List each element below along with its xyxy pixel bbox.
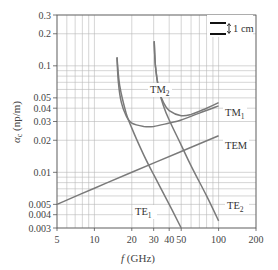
curves	[57, 41, 219, 228]
legend-scale: 1 cm	[207, 15, 254, 37]
x-tick-label: 30	[149, 234, 159, 245]
x-tick-label: 100	[211, 234, 226, 245]
x-tick-label: 10	[89, 234, 99, 245]
x-axis-ticks: 51020304050100200	[55, 228, 264, 245]
x-tick-label: 5	[55, 234, 60, 245]
y-tick-label: 0.04	[34, 103, 52, 114]
y-tick-label: 0.003	[29, 223, 52, 234]
x-tick-label: 200	[249, 234, 264, 245]
label-tem: TEM	[225, 140, 248, 151]
y-axis-title: αc (np/m)	[10, 101, 24, 143]
y-axis-ticks: 0.0030.0040.0050.010.020.030.040.050.10.…	[29, 10, 58, 234]
y-tick-label: 0.01	[34, 167, 52, 178]
y-tick-label: 0.02	[34, 135, 52, 146]
curve-tem	[57, 136, 219, 205]
x-tick-label: 40	[164, 234, 174, 245]
curve-te1	[117, 57, 181, 228]
y-tick-label: 0.3	[39, 10, 52, 21]
y-tick-label: 0.1	[39, 60, 52, 71]
legend-label: 1 cm	[233, 23, 254, 34]
y-tick-label: 0.004	[29, 209, 52, 220]
grid-lines	[57, 15, 256, 228]
y-tick-label: 0.03	[34, 116, 52, 127]
x-tick-label: 50	[176, 234, 186, 245]
attenuation-chart: 51020304050100200 0.0030.0040.0050.010.0…	[0, 0, 278, 270]
y-tick-label: 0.05	[34, 92, 52, 103]
y-tick-label: 0.005	[29, 199, 52, 210]
x-tick-label: 20	[127, 234, 137, 245]
x-axis-title: f (GHz)	[121, 252, 155, 265]
y-tick-label: 0.2	[39, 28, 52, 39]
